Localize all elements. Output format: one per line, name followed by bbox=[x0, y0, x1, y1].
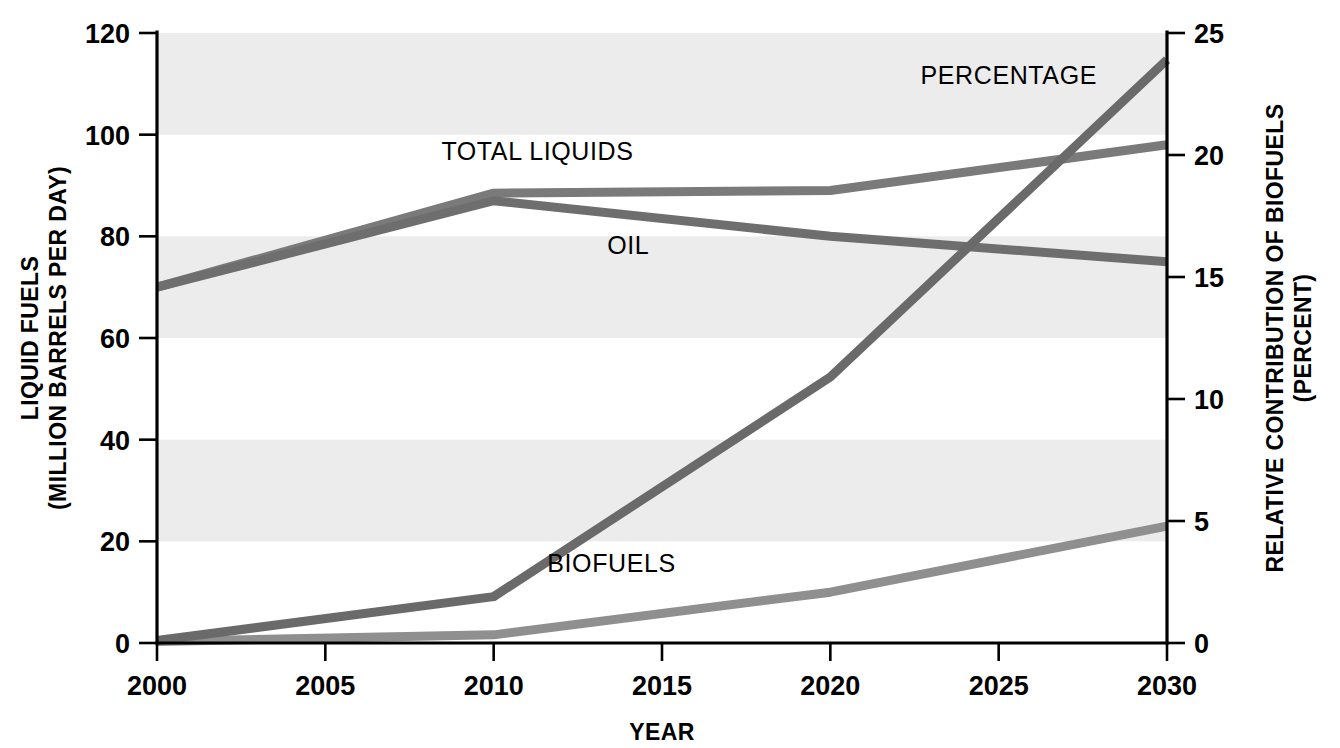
right-tick-label-25: 25 bbox=[1194, 19, 1224, 49]
right-tick-label-15: 15 bbox=[1194, 263, 1224, 293]
right-tick-label-10: 10 bbox=[1194, 385, 1224, 415]
right-tick-label-5: 5 bbox=[1194, 507, 1209, 537]
liquid-fuels-line-chart: 020406080100120 0510152025 2000200520102… bbox=[0, 0, 1340, 748]
y2-axis-title-line1: RELATIVE CONTRIBUTION OF BIOFUELS bbox=[1262, 104, 1288, 573]
bottom-tick-label-2005: 2005 bbox=[295, 671, 355, 701]
left-tick-label-100: 100 bbox=[85, 121, 130, 151]
bottom-axis-ticks: 2000200520102015202020252030 bbox=[127, 643, 1197, 701]
left-tick-label-20: 20 bbox=[100, 527, 130, 557]
bottom-tick-label-2025: 2025 bbox=[969, 671, 1029, 701]
left-tick-label-60: 60 bbox=[100, 324, 130, 354]
right-axis-ticks: 0510152025 bbox=[1167, 19, 1224, 659]
bottom-tick-label-2000: 2000 bbox=[127, 671, 187, 701]
left-tick-label-40: 40 bbox=[100, 426, 130, 456]
chart-figure: 020406080100120 0510152025 2000200520102… bbox=[0, 0, 1340, 748]
series-label-total-liquids: TOTAL LIQUIDS bbox=[441, 137, 633, 165]
left-tick-label-0: 0 bbox=[115, 629, 130, 659]
left-tick-label-80: 80 bbox=[100, 222, 130, 252]
bottom-tick-label-2015: 2015 bbox=[632, 671, 692, 701]
series-label-oil: OIL bbox=[607, 231, 649, 259]
series-label-percentage: PERCENTAGE bbox=[921, 61, 1097, 89]
bottom-tick-label-2010: 2010 bbox=[464, 671, 524, 701]
y-axis-title-line1: LIQUID FUELS bbox=[17, 256, 43, 421]
bottom-tick-label-2030: 2030 bbox=[1137, 671, 1197, 701]
right-tick-label-0: 0 bbox=[1194, 629, 1209, 659]
bottom-tick-label-2020: 2020 bbox=[800, 671, 860, 701]
x-axis-title: YEAR bbox=[629, 719, 695, 745]
y-axis-title-line2: (MILLION BARRELS PER DAY) bbox=[45, 166, 71, 510]
series-label-biofuels: BIOFUELS bbox=[547, 549, 675, 577]
y2-axis-title-line2: (PERCENT) bbox=[1290, 274, 1316, 403]
left-axis-ticks: 020406080100120 bbox=[85, 19, 157, 659]
right-tick-label-20: 20 bbox=[1194, 141, 1224, 171]
background-bands bbox=[157, 33, 1167, 541]
left-tick-label-120: 120 bbox=[85, 19, 130, 49]
